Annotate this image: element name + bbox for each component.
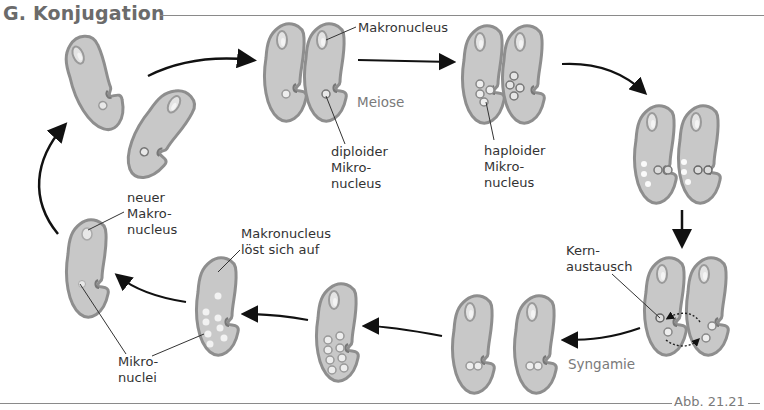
arrow-5-6: [565, 328, 640, 340]
stage-3-pair: [463, 26, 545, 123]
arrow-6-7: [366, 326, 442, 336]
stage-7-cell: [317, 284, 359, 381]
label-haploider-mikronucleus: haploider Mikro- nucleus: [484, 143, 545, 191]
bottom-divider: [0, 403, 672, 404]
figure-reference: Abb. 21.21: [674, 394, 745, 409]
arrow-3-4: [562, 64, 644, 92]
stage-2-pair: [265, 24, 347, 121]
label-syngamie: Syngamie: [568, 356, 635, 372]
label-kernaustausch: Kern- austausch: [566, 243, 632, 275]
stage-9-cell: [67, 220, 109, 317]
conjugation-diagram: [0, 0, 764, 410]
stage-8-cell: [197, 258, 239, 355]
label-neuer-makronucleus: neuer Makro- nucleus: [127, 190, 177, 238]
label-makronucleus: Makronucleus: [358, 20, 448, 36]
label-mikronuclei: Mikro- nuclei: [118, 354, 158, 386]
label-meiose: Meiose: [357, 94, 404, 110]
arrow-8-9: [118, 276, 186, 302]
label-makronucleus-loest-sich-auf: Makronucleus löst sich auf: [241, 226, 331, 258]
label-diploider-mikronucleus: diploider Mikro- nucleus: [331, 144, 388, 192]
stage-6-separated: [453, 296, 557, 393]
stage-4-pair: [635, 106, 721, 203]
stage-1-cell-b: [117, 81, 202, 186]
arrow-2-3: [358, 60, 452, 62]
arrow-1-2: [148, 59, 252, 76]
arrow-7-8: [245, 314, 308, 320]
bottom-divider-end: [748, 403, 760, 404]
arrow-9-1: [39, 126, 64, 234]
stage-5-pair-kernaustausch: [645, 258, 729, 355]
stage-1-cell-a: [56, 31, 131, 137]
